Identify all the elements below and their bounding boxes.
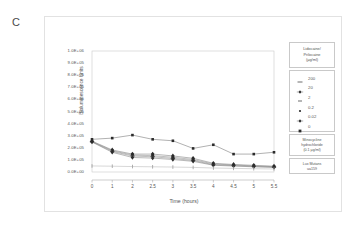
legend-item-0: 0 (290, 122, 336, 132)
chart-area: Bioluminescence Units Time (hours) 0.0E+… (44, 16, 342, 212)
legend-item-0.02: 0.02 (290, 112, 336, 122)
data-point (233, 167, 234, 171)
legend-item-label: 0.02 (307, 114, 336, 119)
legend-item-label: 0.2 (307, 105, 336, 110)
legend-item-200: 200 (290, 73, 336, 83)
data-point (172, 165, 173, 169)
legend-strain-box: Lux Mutans ua159 (289, 158, 335, 174)
legend-title-line-1: Lidocaine/ (290, 43, 334, 52)
legend-item-label: 0 (307, 124, 336, 129)
legend-marker-icon (290, 102, 307, 112)
legend-minocycline-box: Minocycline hydrochloride (0.1 µg/ml) (289, 134, 335, 156)
minocycline-line-1: Minocycline (290, 135, 334, 143)
data-point (232, 153, 235, 156)
data-point (273, 151, 276, 154)
data-point (253, 167, 254, 171)
data-point (112, 164, 113, 168)
x-axis-line (92, 180, 274, 183)
legend-marker-icon (290, 73, 307, 83)
legend-marker-icon (290, 92, 307, 102)
minocycline-line-3: (0.1 µg/ml) (290, 148, 334, 153)
panel-label: C (12, 16, 20, 28)
legend-item-label: 2 (307, 95, 336, 100)
data-point (212, 143, 215, 146)
legend-item-20: 20 (290, 83, 336, 93)
strain-line-2: ua159 (290, 167, 334, 172)
data-point (131, 134, 134, 137)
legend-title-box: Lidocaine/ Prilocaine (µg/ml) (289, 42, 335, 68)
legend-items-box: 2002020.20.020 (289, 70, 335, 132)
strain-line-1: Lux Mutans (290, 159, 334, 167)
data-point (172, 139, 175, 142)
data-point (274, 167, 275, 171)
figure-panel-c: C Bioluminescence Units Time (hours) 0.0… (0, 0, 352, 226)
legend-item-0.2: 0.2 (290, 102, 336, 112)
legend-marker-icon (290, 122, 307, 132)
legend-item-2: 2 (290, 92, 336, 102)
legend-marker-icon (290, 112, 307, 122)
data-point (152, 165, 153, 169)
data-point (252, 153, 255, 156)
legend-item-label: 20 (307, 85, 336, 90)
legend-marker-icon (290, 83, 307, 93)
data-point (193, 166, 194, 170)
legend-item-label: 200 (307, 76, 336, 81)
data-point (132, 165, 133, 169)
data-point (213, 166, 214, 170)
legend-title-line-3: (µg/ml) (290, 57, 334, 63)
data-point (192, 147, 195, 150)
data-point (151, 138, 154, 141)
data-point (92, 164, 93, 168)
data-point (111, 137, 114, 140)
